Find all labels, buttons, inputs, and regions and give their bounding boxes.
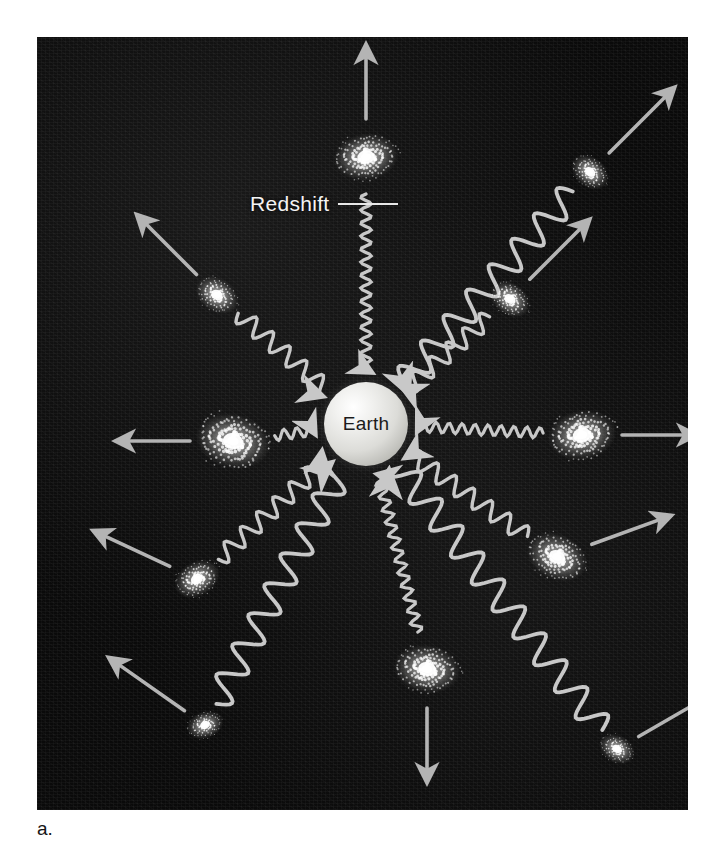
recession-arrow-g-bottom-right (639, 691, 688, 737)
recession-arrow-g-lower-right (592, 516, 671, 545)
redshift-label: Redshift (250, 192, 329, 216)
recession-arrow-g-upper-right (530, 220, 589, 279)
figure-caption: a. (37, 818, 53, 840)
redshift-figure: Earth Redshift a. (0, 0, 718, 847)
redshift-callout: Redshift (250, 192, 398, 216)
callout-leader-line (338, 203, 398, 205)
earth-label: Earth (343, 413, 389, 435)
recession-arrow-g-bottom-left (109, 658, 184, 711)
recession-arrow-g-upper-left (137, 215, 196, 274)
earth-sphere: Earth (324, 382, 408, 466)
recession-arrow-g-top-far (609, 88, 674, 153)
recession-arrow-g-lower-left (94, 531, 170, 567)
sky-panel: Earth Redshift (37, 37, 688, 810)
galaxy-scene: Earth Redshift (37, 37, 688, 810)
